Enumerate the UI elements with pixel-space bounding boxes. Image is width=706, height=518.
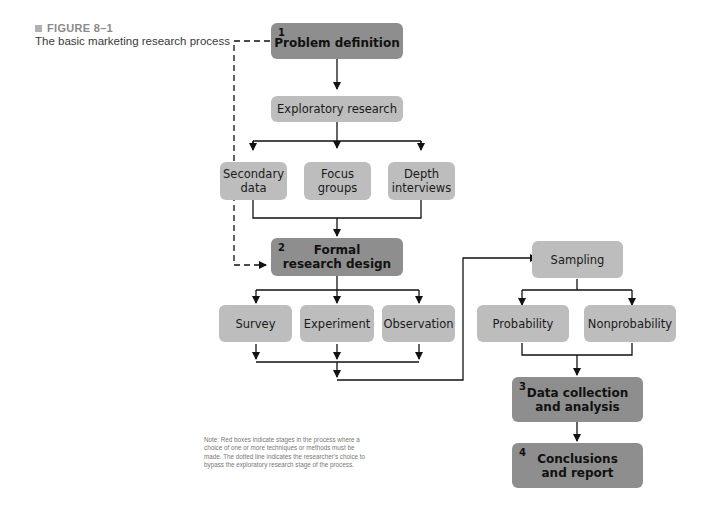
label-line-2: interviews: [392, 181, 451, 195]
figure-note: Note: Red boxes indicate stages in the p…: [204, 436, 369, 470]
node-sampling: Sampling: [532, 241, 623, 278]
node-probability: Probability: [477, 305, 569, 342]
node-label: Depthinterviews: [392, 167, 451, 195]
label-line-1: Data collection: [527, 386, 629, 400]
label-line-2: data: [241, 181, 267, 195]
stage-data-collection: 3 Data collectionand analysis: [512, 377, 643, 422]
node-observation: Observation: [382, 305, 455, 342]
label-line-1: Focus: [321, 167, 354, 181]
node-depth-interviews: Depthinterviews: [388, 162, 455, 200]
node-survey: Survey: [219, 305, 292, 342]
label-line-1: Secondary: [223, 167, 284, 181]
label-line-1: Conclusions: [537, 452, 618, 466]
node-label: Data collectionand analysis: [527, 386, 629, 414]
label-line-1: Formal: [314, 243, 361, 257]
node-exploratory-research: Exploratory research: [271, 96, 403, 122]
node-label: Survey: [235, 317, 275, 331]
node-label: Exploratory research: [277, 102, 397, 116]
node-label: Observation: [383, 317, 453, 331]
node-label: Sampling: [551, 253, 605, 267]
node-label: Probability: [493, 317, 554, 331]
step-number: 3: [519, 380, 526, 394]
label-line-2: and report: [542, 466, 614, 480]
step-number: 1: [278, 26, 285, 40]
node-label: Nonprobability: [588, 317, 672, 331]
node-nonprobability: Nonprobability: [584, 305, 676, 342]
stage-formal-research-design: 2 Formalresearch design: [271, 238, 403, 276]
node-secondary-data: Secondarydata: [220, 162, 287, 200]
label-line-2: and analysis: [535, 400, 619, 414]
node-label: Conclusionsand report: [537, 452, 618, 480]
label-line-1: Depth: [404, 167, 439, 181]
stage-conclusions: 4 Conclusionsand report: [512, 443, 643, 488]
node-label: Experiment: [304, 317, 370, 331]
node-experiment: Experiment: [300, 305, 374, 342]
node-label: Focusgroups: [318, 167, 357, 195]
step-number: 2: [278, 241, 285, 255]
node-label: Formalresearch design: [283, 243, 391, 271]
node-label: Problem definition: [274, 36, 399, 50]
step-number: 4: [519, 446, 526, 460]
node-focus-groups: Focusgroups: [304, 162, 371, 200]
stage-problem-definition: 1 Problem definition: [271, 23, 403, 59]
label-line-2: groups: [318, 181, 357, 195]
label-line-2: research design: [283, 257, 391, 271]
node-label: Secondarydata: [223, 167, 284, 195]
